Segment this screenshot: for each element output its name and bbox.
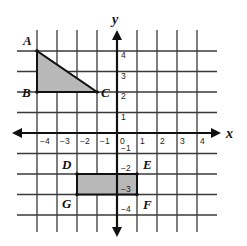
vertex-point-c xyxy=(95,90,99,94)
vertex-label-f: F xyxy=(142,197,152,212)
vertex-point-a xyxy=(35,49,39,53)
x-tick-label: −2 xyxy=(80,136,90,146)
y-tick-label: 1 xyxy=(121,112,126,122)
x-tick-label: 4 xyxy=(200,136,205,146)
y-tick-label: −3 xyxy=(121,184,131,194)
y-axis-label: y xyxy=(110,12,119,27)
y-tick-label: 2 xyxy=(121,91,126,101)
x-tick-label: −1 xyxy=(100,136,110,146)
vertex-label-b: B xyxy=(21,85,31,100)
y-axis-down-arrow-icon xyxy=(112,227,122,237)
x-axis-right-arrow-icon xyxy=(211,128,221,138)
x-tick-label: 2 xyxy=(160,136,165,146)
y-tick-label: −2 xyxy=(121,163,131,173)
y-axis-up-arrow-icon xyxy=(112,30,122,40)
x-tick-label: −4 xyxy=(40,136,50,146)
x-tick-label: −3 xyxy=(60,136,70,146)
y-tick-label: −4 xyxy=(121,204,131,214)
vertex-label-g: G xyxy=(62,196,72,211)
vertex-label-e: E xyxy=(142,157,152,172)
vertex-point-b xyxy=(35,90,39,94)
vertex-label-c: C xyxy=(101,85,110,100)
vertex-point-e xyxy=(135,172,139,176)
y-tick-label: 4 xyxy=(121,50,126,60)
x-axis-left-arrow-icon xyxy=(12,128,22,138)
y-tick-label: −1 xyxy=(121,143,131,153)
x-axis-label: x xyxy=(225,126,233,141)
vertex-point-f xyxy=(135,193,139,197)
coordinate-plane-diagram: x y −4−3−2−1012344321−1−2−3−4 ABCDEFG xyxy=(0,0,247,246)
x-tick-label: 1 xyxy=(140,136,145,146)
vertex-label-d: D xyxy=(61,157,72,172)
x-tick-label: 3 xyxy=(180,136,185,146)
y-tick-label: 3 xyxy=(121,71,126,81)
vertex-point-d xyxy=(75,172,79,176)
vertex-label-a: A xyxy=(22,33,32,48)
vertex-point-g xyxy=(75,193,79,197)
